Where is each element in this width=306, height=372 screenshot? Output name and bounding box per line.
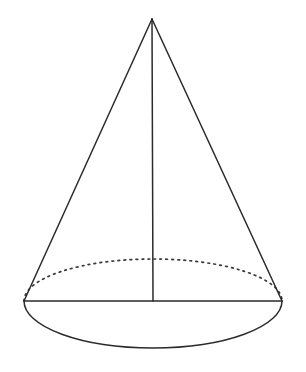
central-axis-line [152,19,153,301]
cone-figure-canvas [0,0,306,372]
cone-diagram [0,0,306,372]
